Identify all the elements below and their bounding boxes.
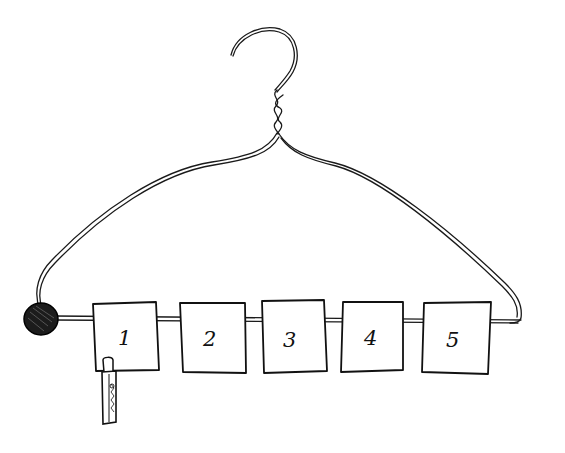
hanger-drawing: 1 2 3 4 5 — [0, 0, 565, 453]
card-5: 5 — [422, 302, 491, 374]
card-2-label: 2 — [202, 327, 216, 351]
card-5-label: 5 — [446, 328, 459, 352]
hanger-hook — [231, 28, 297, 134]
card-1-label: 1 — [118, 326, 131, 350]
hanger-shoulders — [37, 133, 522, 323]
dark-knob — [24, 303, 58, 335]
card-4: 4 — [341, 302, 403, 372]
card-2: 2 — [180, 303, 246, 373]
card-4-label: 4 — [363, 326, 377, 350]
card-3: 3 — [262, 300, 327, 373]
card-3-label: 3 — [283, 328, 296, 352]
